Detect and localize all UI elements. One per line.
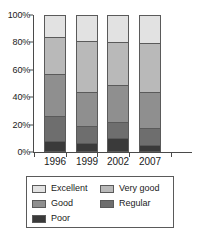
bar-segment-excellent <box>45 16 65 38</box>
bar-segment-poor <box>140 146 160 151</box>
legend-label: Very good <box>119 184 160 193</box>
bar-2007 <box>139 15 161 152</box>
bar-segment-good <box>140 93 160 129</box>
legend-swatch-icon <box>100 185 114 193</box>
x-tick-label: 1996 <box>44 156 66 167</box>
bar-segment-regular <box>140 129 160 145</box>
bar-segment-poor <box>45 142 65 151</box>
x-tick-mark <box>97 153 98 157</box>
bar-segment-good <box>77 93 97 127</box>
y-tick-mark <box>29 124 33 125</box>
legend-label: Regular <box>119 199 151 208</box>
legend-item-poor[interactable]: Poor <box>32 211 100 226</box>
bar-1996 <box>44 15 66 152</box>
x-tick-mark <box>66 153 67 157</box>
legend-swatch-icon <box>32 215 46 223</box>
y-tick-mark <box>29 97 33 98</box>
x-tick-mark <box>171 153 172 157</box>
legend-label: Good <box>51 199 73 208</box>
legend-item-excellent[interactable]: Excellent <box>32 181 100 196</box>
bars-layer: 1996199920022007 <box>0 0 199 170</box>
legend-item-very-good[interactable]: Very good <box>100 181 168 196</box>
legend-label: Excellent <box>51 184 88 193</box>
y-tick-mark <box>29 152 33 153</box>
legend-swatch-icon <box>100 200 114 208</box>
bar-segment-regular <box>45 117 65 141</box>
bar-segment-very-good <box>77 42 97 93</box>
x-tick-mark <box>129 153 130 157</box>
y-tick-mark <box>29 42 33 43</box>
x-tick-label: 2002 <box>107 156 129 167</box>
y-tick-mark <box>29 69 33 70</box>
bar-segment-excellent <box>108 16 128 43</box>
bar-segment-regular <box>77 127 97 145</box>
stacked-bar-chart: 0%20%40%60%80%100% 1996199920022007 Exce… <box>0 0 199 235</box>
legend-item-good[interactable]: Good <box>32 196 100 211</box>
x-tick-mark <box>34 153 35 157</box>
legend-swatch-icon <box>32 185 46 193</box>
y-tick-mark <box>29 15 33 16</box>
plot-area: 0%20%40%60%80%100% 1996199920022007 <box>0 0 199 170</box>
bar-segment-good <box>45 75 65 117</box>
bar-segment-excellent <box>77 16 97 42</box>
legend-item-regular[interactable]: Regular <box>100 196 168 211</box>
bar-segment-poor <box>77 144 97 151</box>
bar-2002 <box>107 15 129 152</box>
bar-segment-good <box>108 86 128 122</box>
legend-label: Poor <box>51 214 70 223</box>
bar-segment-poor <box>108 139 128 151</box>
bar-segment-very-good <box>140 44 160 93</box>
chart-legend: ExcellentVery goodGoodRegularPoor <box>26 176 174 228</box>
bar-segment-excellent <box>140 16 160 44</box>
legend-grid: ExcellentVery goodGoodRegularPoor <box>32 181 168 226</box>
bar-segment-regular <box>108 123 128 139</box>
bar-segment-very-good <box>108 43 128 86</box>
legend-swatch-icon <box>32 200 46 208</box>
x-tick-label: 2007 <box>139 156 161 167</box>
bar-segment-very-good <box>45 38 65 76</box>
bar-1999 <box>76 15 98 152</box>
x-tick-label: 1999 <box>76 156 98 167</box>
